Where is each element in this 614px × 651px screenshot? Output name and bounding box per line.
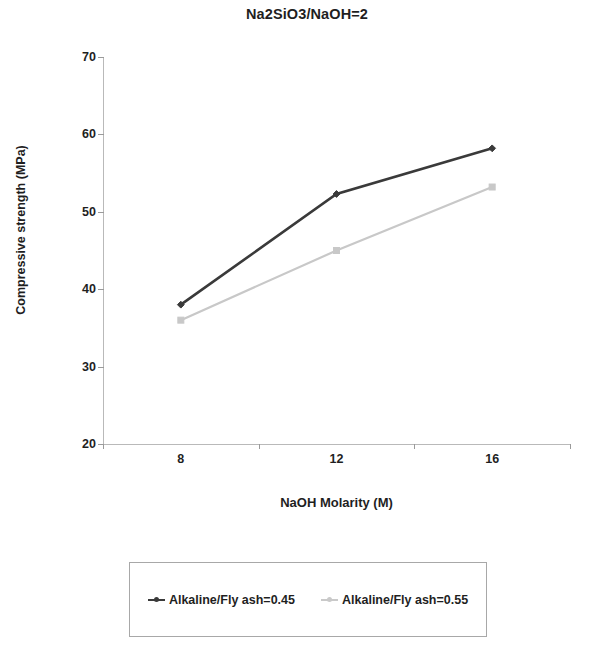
data-point-marker (489, 145, 496, 152)
y-axis-title-text: Compressive strength (MPa) (14, 145, 28, 314)
legend-label: Alkaline/Fly ash=0.55 (342, 593, 468, 607)
series-1 (177, 145, 495, 308)
legend-marker-icon (148, 595, 165, 604)
y-tick-label: 20 (62, 437, 96, 451)
x-axis-title: NaOH Molarity (M) (103, 495, 570, 510)
x-tick-label: 12 (307, 452, 367, 466)
legend-marker-icon (321, 595, 338, 604)
legend-items: Alkaline/Fly ash=0.45Alkaline/Fly ash=0.… (130, 563, 486, 636)
data-point-marker (334, 248, 340, 254)
legend-item[interactable]: Alkaline/Fly ash=0.55 (321, 593, 468, 607)
data-point-marker (178, 317, 184, 323)
x-tick-mark (259, 444, 260, 449)
x-tick-mark (414, 444, 415, 449)
y-tick-label: 60 (62, 127, 96, 141)
series-line (181, 148, 492, 304)
y-tick-label: 40 (62, 282, 96, 296)
y-tick-label: 30 (62, 360, 96, 374)
chart-container: Na2SiO3/NaOH=2 Compressive strength (MPa… (0, 0, 614, 651)
y-tick-label: 70 (62, 50, 96, 64)
legend-item[interactable]: Alkaline/Fly ash=0.45 (148, 593, 295, 607)
plot-area (103, 57, 570, 444)
chart-title: Na2SiO3/NaOH=2 (0, 6, 614, 22)
data-point-marker (489, 184, 495, 190)
legend-label: Alkaline/Fly ash=0.45 (169, 593, 295, 607)
legend-box: Alkaline/Fly ash=0.45Alkaline/Fly ash=0.… (129, 562, 487, 637)
x-tick-label: 8 (151, 452, 211, 466)
x-tick-mark (103, 444, 104, 449)
y-tick-label: 50 (62, 205, 96, 219)
x-tick-mark (570, 444, 571, 449)
x-axis-line (103, 444, 570, 445)
series-2 (178, 184, 495, 323)
y-axis-title: Compressive strength (MPa) (9, 60, 33, 400)
x-tick-label: 16 (462, 452, 522, 466)
series-layer (177, 145, 495, 323)
